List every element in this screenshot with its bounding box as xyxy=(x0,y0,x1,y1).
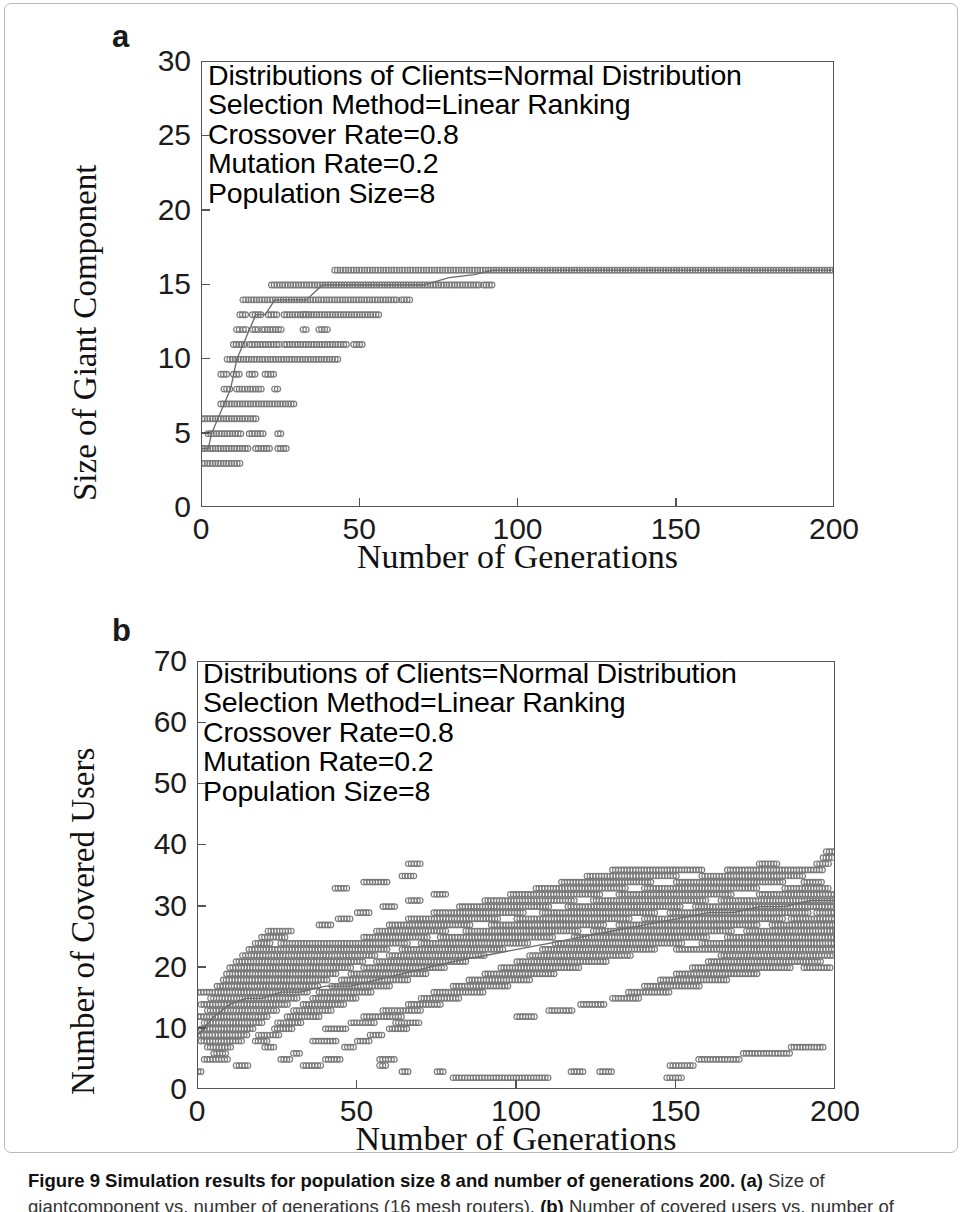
caption-bold-lead: Figure 9 Simulation results for populati… xyxy=(28,1170,735,1191)
figure-card: a Size of Giant Component Distributions … xyxy=(4,3,958,1153)
y-tick-label-30: 30 xyxy=(131,891,187,921)
y-tick-mark-10 xyxy=(201,358,210,360)
y-tick-mark-60 xyxy=(197,722,206,724)
y-tick-label-30: 30 xyxy=(135,46,191,76)
y-tick-label-20: 20 xyxy=(131,952,187,982)
x-tick-mark-50 xyxy=(359,498,361,507)
annotation-line-1: Distributions of Clients=Normal Distribu… xyxy=(203,661,737,688)
caption-b-tag: (b) xyxy=(540,1196,564,1212)
y-tick-mark-50 xyxy=(197,783,206,785)
y-tick-label-10: 10 xyxy=(131,1013,187,1043)
annotation-line-2: Selection Method=Linear Ranking xyxy=(208,90,742,119)
y-tick-mark-20 xyxy=(197,966,206,968)
y-tick-mark-25 xyxy=(201,135,210,137)
annotation-line-2: Selection Method=Linear Ranking xyxy=(203,688,737,717)
y-tick-label-50: 50 xyxy=(131,768,187,798)
y-tick-mark-15 xyxy=(201,284,210,286)
panel-b-letter: b xyxy=(112,615,131,646)
y-tick-mark-10 xyxy=(197,1027,206,1029)
scatter-points xyxy=(202,267,834,466)
caption-a-tag: (a) xyxy=(740,1170,763,1191)
caption-b-text: Number of covered users vs. number of xyxy=(564,1196,894,1212)
panel-b: b Number of Covered Users Distributions … xyxy=(5,604,959,1154)
panel-a-letter: a xyxy=(112,21,129,52)
annotation-line-3: Crossover Rate=0.8 xyxy=(203,718,737,747)
panel-a-x-axis-label: Number of Generations xyxy=(201,538,834,576)
y-tick-label-20: 20 xyxy=(135,195,191,225)
y-tick-label-70: 70 xyxy=(131,646,187,676)
scatter-points xyxy=(198,849,835,1081)
y-tick-mark-5 xyxy=(201,432,210,434)
y-tick-mark-20 xyxy=(201,209,210,211)
annotation-line-4: Mutation Rate=0.2 xyxy=(208,149,742,178)
y-tick-label-25: 25 xyxy=(135,120,191,150)
panel-a-annotation-text: Distributions of Clients=Normal Distribu… xyxy=(208,61,742,208)
y-tick-label-60: 60 xyxy=(131,707,187,737)
x-tick-mark-150 xyxy=(675,498,677,507)
y-tick-label-5: 5 xyxy=(135,418,191,448)
panel-a: a Size of Giant Component Distributions … xyxy=(5,4,959,576)
annotation-line-4: Mutation Rate=0.2 xyxy=(203,747,737,776)
y-tick-mark-30 xyxy=(197,905,206,907)
annotation-line-1: Distributions of Clients=Normal Distribu… xyxy=(208,61,742,90)
panel-a-plot-frame: Distributions of Clients=Normal Distribu… xyxy=(201,61,834,507)
annotation-line-5: Population Size=8 xyxy=(208,179,742,208)
y-tick-label-10: 10 xyxy=(135,343,191,373)
annotation-line-5: Population Size=8 xyxy=(203,777,737,806)
y-tick-mark-40 xyxy=(197,844,206,846)
panel-b-x-axis-label: Number of Generations xyxy=(197,1120,835,1158)
panel-a-y-axis-label: Size of Giant Component xyxy=(67,165,104,501)
x-tick-mark-50 xyxy=(356,1080,358,1089)
figure-caption: Figure 9 Simulation results for populati… xyxy=(28,1168,943,1212)
x-tick-mark-150 xyxy=(675,1080,677,1089)
annotation-line-3: Crossover Rate=0.8 xyxy=(208,120,742,149)
panel-b-y-axis-label: Number of Covered Users xyxy=(65,748,102,1095)
panel-b-annotation-text: Distributions of Clients=Normal Distribu… xyxy=(203,661,737,806)
y-tick-label-40: 40 xyxy=(131,829,187,859)
x-tick-mark-100 xyxy=(515,1080,517,1089)
caption-line2-pre: component vs. number of generations (16 … xyxy=(68,1196,540,1212)
x-tick-mark-100 xyxy=(517,498,519,507)
y-tick-label-15: 15 xyxy=(135,269,191,299)
panel-b-plot-frame: Distributions of Clients=Normal Distribu… xyxy=(197,661,835,1089)
